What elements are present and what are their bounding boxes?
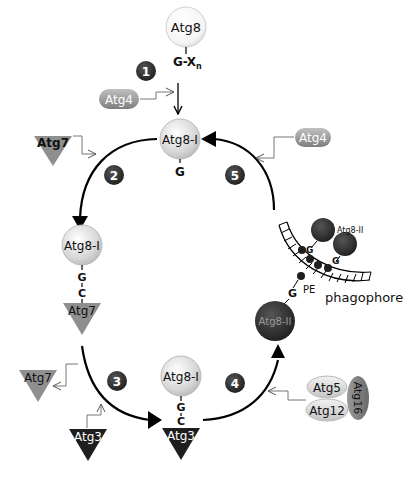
- svg-text:Atg7: Atg7: [24, 371, 52, 385]
- svg-text:G: G: [176, 401, 185, 414]
- atg8-i-atg3-complex: Atg8-I G C Atg3: [161, 356, 201, 460]
- svg-text:Atg3: Atg3: [74, 430, 102, 444]
- svg-text:G: G: [175, 165, 185, 179]
- step-1-badge: 1: [136, 61, 156, 81]
- svg-text:Atg8-I: Atg8-I: [64, 239, 100, 253]
- svg-text:Atg7: Atg7: [37, 136, 69, 150]
- svg-text:Atg16: Atg16: [351, 382, 364, 415]
- atg8-cycle-diagram: Atg8 G-Xn 1 Atg4 Atg8-I G 2 5: [0, 0, 413, 481]
- atg8-i-top: Atg8-I G: [160, 119, 200, 179]
- svg-text:Atg8: Atg8: [171, 20, 201, 35]
- svg-text:PE: PE: [303, 284, 315, 295]
- atg4-pill-left: Atg4: [99, 89, 174, 109]
- atg4-pill-right: Atg4: [256, 128, 331, 158]
- svg-text:5: 5: [231, 169, 239, 183]
- svg-text:G: G: [332, 256, 339, 266]
- step-2-badge: 2: [104, 165, 124, 185]
- svg-text:phagophore: phagophore: [325, 290, 403, 305]
- atg7-enzyme-top: Atg7: [34, 136, 96, 166]
- svg-text:Atg8-I: Atg8-I: [162, 133, 198, 147]
- step-5-badge: 5: [225, 165, 245, 185]
- svg-text:C: C: [177, 415, 185, 428]
- svg-text:Atg8-I: Atg8-I: [163, 370, 199, 384]
- svg-text:Atg4: Atg4: [105, 93, 133, 107]
- atg7-released: Atg7: [19, 364, 78, 402]
- svg-text:G: G: [77, 271, 86, 284]
- atg8-ii-lipidated: PE G Atg8-II: [255, 280, 315, 341]
- svg-text:Atg7: Atg7: [68, 304, 96, 318]
- svg-text:Atg4: Atg4: [299, 131, 327, 145]
- svg-text:1: 1: [142, 65, 150, 79]
- svg-text:Atg8-II: Atg8-II: [337, 226, 363, 235]
- svg-text:Atg12: Atg12: [309, 404, 345, 418]
- atg8-precursor: Atg8 G-Xn: [166, 7, 206, 71]
- svg-text:Atg5: Atg5: [313, 381, 341, 395]
- atg8-ii-membrane: Atg8-II G G: [297, 218, 363, 280]
- atg3-enzyme: Atg3: [69, 404, 107, 461]
- svg-text:C: C: [78, 287, 86, 300]
- svg-text:G: G: [306, 245, 313, 255]
- svg-text:2: 2: [110, 169, 118, 183]
- svg-text:Atg8-II: Atg8-II: [259, 316, 292, 327]
- step-4-badge: 4: [225, 373, 245, 393]
- svg-text:Atg3: Atg3: [167, 429, 195, 443]
- svg-text:G-Xn: G-Xn: [173, 55, 202, 71]
- step-3-badge: 3: [107, 371, 127, 391]
- svg-text:4: 4: [231, 377, 239, 391]
- atg8-i-atg7-complex: Atg8-I G C Atg7: [62, 225, 102, 335]
- atg12-atg5-atg16-complex: Atg5 Atg12 Atg16: [268, 376, 369, 421]
- svg-text:3: 3: [113, 375, 121, 389]
- svg-text:G: G: [288, 287, 297, 300]
